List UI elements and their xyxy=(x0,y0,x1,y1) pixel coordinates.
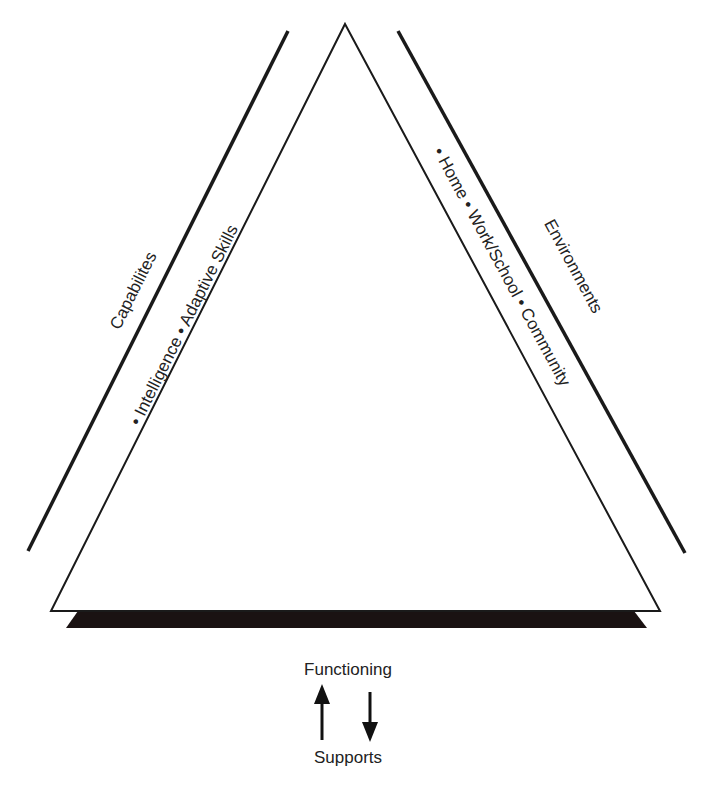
supports-label: Supports xyxy=(286,748,410,768)
base-bar xyxy=(66,611,647,628)
up-arrow-icon xyxy=(314,684,330,740)
functioning-label: Functioning xyxy=(286,660,410,680)
main-triangle xyxy=(51,24,660,611)
down-arrow-icon xyxy=(362,692,378,742)
